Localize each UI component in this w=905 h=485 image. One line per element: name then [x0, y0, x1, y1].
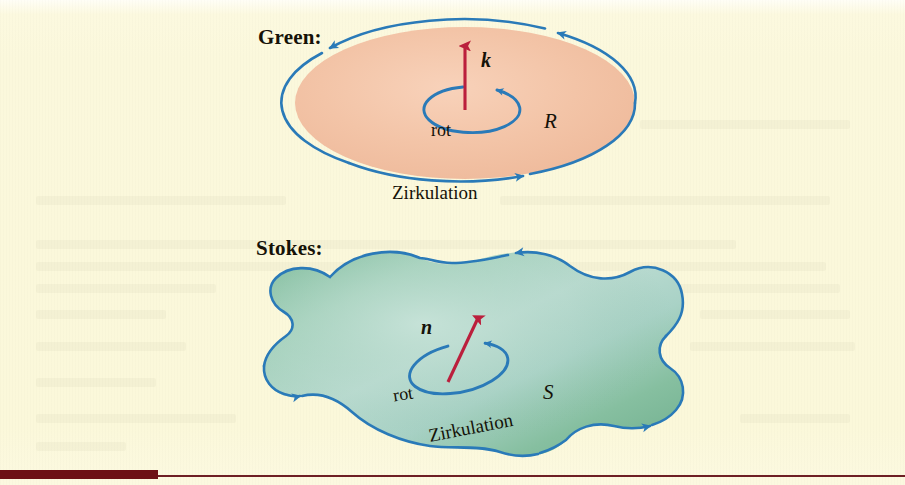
stokes-panel-title: Stokes: [256, 238, 323, 259]
green-panel-graphic [281, 19, 635, 181]
green-rot-label: rot [431, 121, 451, 139]
green-panel-title: Green: [258, 27, 322, 48]
footer-rule-thick [0, 470, 158, 479]
green-circulation-label: Zirkulation [392, 183, 477, 202]
figure-page: Zirkulation Green: k rot R Zirkulation S… [0, 0, 905, 485]
stokes-normal-vector-label: n [421, 317, 432, 337]
green-normal-vector-label: k [481, 50, 491, 70]
stokes-region-label: S [543, 382, 554, 403]
theorem-illustration: Zirkulation [0, 0, 905, 485]
stokes-rot-label: rot [392, 384, 415, 405]
green-region-label: R [544, 111, 557, 132]
